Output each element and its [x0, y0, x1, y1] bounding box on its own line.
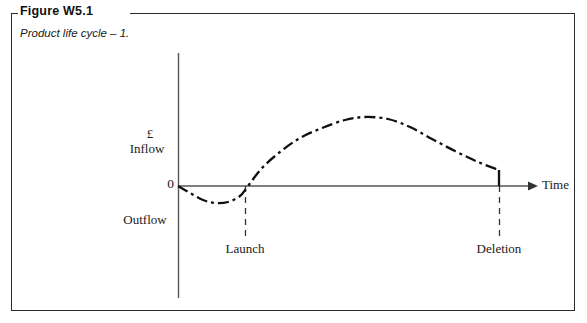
lifecycle-curve — [178, 117, 499, 203]
figure-page: Figure W5.1 Product life cycle – 1. £ In… — [0, 0, 587, 323]
launch-annotation-label: Launch — [214, 241, 276, 257]
y-axis-outflow-label: Outflow — [116, 212, 174, 228]
x-axis-arrowhead — [528, 182, 538, 191]
y-axis-zero-label: 0 — [158, 176, 174, 192]
y-axis-currency-label: £ — [126, 126, 174, 142]
x-axis-time-label: Time — [542, 177, 569, 193]
deletion-annotation-label: Deletion — [466, 241, 532, 257]
y-axis-inflow-label: Inflow — [120, 141, 174, 157]
chart-plot-area — [0, 0, 587, 323]
